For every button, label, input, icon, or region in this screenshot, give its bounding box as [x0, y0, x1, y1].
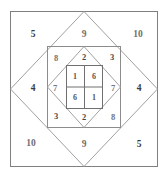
inner-cell-top-right: 6 [86, 70, 102, 84]
outer-label-top-right: 10 [130, 28, 146, 42]
outer-label-middle-left: 4 [25, 82, 41, 96]
middle-label-middle-left: 7 [47, 81, 63, 95]
middle-label-top-center: 2 [76, 50, 92, 64]
middle-label-top-left: 8 [48, 51, 64, 65]
inner-cell-top-left: 1 [67, 70, 83, 84]
inner-cell-bottom-left: 6 [67, 91, 83, 105]
outer-label-bottom-center: 9 [76, 138, 92, 152]
middle-label-bottom-right: 8 [105, 110, 121, 124]
middle-label-bottom-left: 3 [48, 109, 64, 123]
outer-label-bottom-left: 10 [23, 137, 39, 151]
outer-label-top-center: 9 [76, 28, 92, 42]
outer-label-top-left: 5 [25, 28, 41, 42]
middle-label-bottom-center: 2 [76, 110, 92, 124]
middle-label-top-right: 3 [104, 50, 120, 64]
middle-label-middle-right: 7 [105, 81, 121, 95]
outer-label-middle-right: 4 [131, 82, 147, 96]
figure-canvas: 5 9 10 4 4 10 9 5 8 2 3 7 7 3 2 8 1 6 6 … [0, 0, 168, 178]
inner-cell-bottom-right: 1 [86, 91, 102, 105]
outer-label-bottom-right: 5 [131, 138, 147, 152]
